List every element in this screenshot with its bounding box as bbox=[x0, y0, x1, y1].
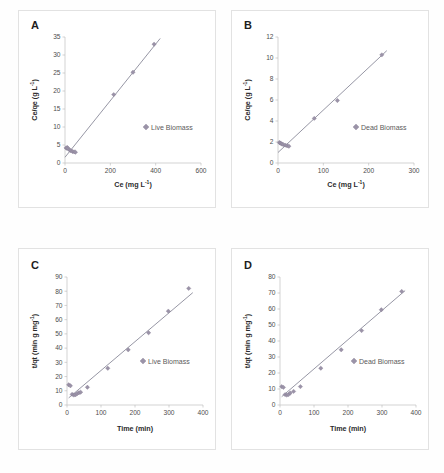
panel-c-chart: 0102030405060708090 0100200300400 Live B… bbox=[19, 249, 215, 449]
panel-c-legend-label: Live Biomass bbox=[148, 358, 190, 365]
y-tick-label: 50 bbox=[55, 330, 63, 337]
panel-a: A 05101520253035 0200400600 Live Biomass… bbox=[18, 10, 216, 208]
y-tick-label: 40 bbox=[55, 344, 63, 351]
panel-a-legend-label: Live Biomass bbox=[151, 124, 193, 131]
trend-line bbox=[282, 291, 405, 397]
panel-a-xaxis: 0200400600 bbox=[63, 163, 207, 174]
y-tick-label: 2 bbox=[270, 138, 274, 145]
trend-line bbox=[69, 293, 193, 398]
data-point bbox=[335, 98, 339, 102]
y-tick-label: 10 bbox=[55, 387, 63, 394]
x-tick-label: 200 bbox=[342, 409, 353, 416]
x-tick-label: 300 bbox=[408, 167, 419, 174]
y-tick-label: 30 bbox=[268, 353, 276, 360]
panel-d-legend-label: Dead Biomass bbox=[359, 358, 405, 365]
y-tick-label: 90 bbox=[55, 273, 63, 280]
y-tick-label: 0 bbox=[57, 159, 61, 166]
y-tick-label: 60 bbox=[55, 316, 63, 323]
data-point bbox=[187, 286, 191, 290]
trend-line bbox=[278, 51, 387, 153]
data-point bbox=[400, 289, 404, 293]
panel-b-xaxis-title: Ce (mg L-1) bbox=[327, 179, 365, 189]
panel-d-xaxis-title: Time (min) bbox=[330, 424, 367, 433]
y-tick-label: 5 bbox=[57, 141, 61, 148]
y-tick-label: 10 bbox=[53, 123, 61, 130]
panel-b-yaxis-title: Ce/qe (g L-1) bbox=[242, 79, 252, 121]
y-tick-label: 60 bbox=[268, 305, 276, 312]
panel-b-xaxis: 0100200300 bbox=[276, 163, 420, 174]
panel-d-chart: 01020304050607080 0100200300400 Dead Bio… bbox=[232, 249, 428, 449]
y-tick-label: 40 bbox=[268, 337, 276, 344]
panel-a-yaxis: 05101520253035 bbox=[53, 33, 65, 166]
y-tick-label: 20 bbox=[53, 87, 61, 94]
y-tick-label: 10 bbox=[266, 54, 274, 61]
x-tick-label: 300 bbox=[376, 409, 387, 416]
panel-b: B 024681012 0100200300 Dead Biomass Ce (… bbox=[231, 10, 429, 208]
panel-d-yaxis-title: t/qt (min g mg-1) bbox=[242, 313, 252, 368]
panel-c-xaxis-title: Time (min) bbox=[117, 424, 154, 433]
x-tick-label: 0 bbox=[65, 409, 69, 416]
panel-c-xaxis: 0100200300400 bbox=[65, 405, 209, 416]
y-tick-label: 0 bbox=[272, 401, 276, 408]
panel-b-data bbox=[277, 51, 387, 153]
panel-c-data bbox=[67, 286, 193, 398]
y-tick-label: 8 bbox=[270, 75, 274, 82]
panel-b-legend: Dead Biomass bbox=[353, 124, 407, 131]
data-point bbox=[106, 366, 110, 370]
x-tick-label: 100 bbox=[308, 409, 319, 416]
panel-c-yaxis: 0102030405060708090 bbox=[55, 273, 67, 408]
data-point bbox=[298, 384, 302, 388]
y-tick-label: 35 bbox=[53, 33, 61, 40]
x-tick-label: 200 bbox=[363, 167, 374, 174]
panel-c-yaxis-title: t/qt (min g mg-1) bbox=[29, 313, 39, 368]
panel-d: D 01020304050607080 0100200300400 Dead B… bbox=[231, 248, 429, 450]
data-point bbox=[152, 42, 156, 46]
y-tick-label: 30 bbox=[53, 51, 61, 58]
panel-a-legend: Live Biomass bbox=[143, 124, 193, 131]
y-tick-label: 50 bbox=[268, 321, 276, 328]
x-tick-label: 300 bbox=[163, 409, 174, 416]
panel-b-legend-label: Dead Biomass bbox=[361, 124, 407, 131]
panel-d-yaxis: 01020304050607080 bbox=[268, 273, 280, 408]
y-tick-label: 70 bbox=[55, 302, 63, 309]
panel-b-yaxis: 024681012 bbox=[266, 33, 278, 166]
y-tick-label: 20 bbox=[268, 369, 276, 376]
y-tick-label: 80 bbox=[55, 288, 63, 295]
y-tick-label: 20 bbox=[55, 373, 63, 380]
y-tick-label: 70 bbox=[268, 289, 276, 296]
y-tick-label: 0 bbox=[270, 159, 274, 166]
trend-line bbox=[65, 38, 160, 157]
panel-a-chart: 05101520253035 0200400600 Live Biomass C… bbox=[19, 11, 215, 207]
panel-c-legend: Live Biomass bbox=[140, 358, 190, 365]
panel-b-chart: 024681012 0100200300 Dead Biomass Ce (mg… bbox=[232, 11, 428, 207]
x-tick-label: 400 bbox=[150, 167, 161, 174]
x-tick-label: 400 bbox=[410, 409, 421, 416]
x-tick-label: 100 bbox=[318, 167, 329, 174]
panel-a-data bbox=[64, 38, 160, 157]
y-tick-label: 80 bbox=[268, 273, 276, 280]
x-tick-label: 0 bbox=[63, 167, 67, 174]
y-tick-label: 10 bbox=[268, 385, 276, 392]
y-tick-label: 15 bbox=[53, 105, 61, 112]
y-tick-label: 4 bbox=[270, 117, 274, 124]
x-tick-label: 100 bbox=[95, 409, 106, 416]
data-point bbox=[379, 308, 383, 312]
y-tick-label: 6 bbox=[270, 96, 274, 103]
panel-d-data bbox=[280, 289, 406, 397]
data-point bbox=[85, 385, 89, 389]
data-point bbox=[319, 366, 323, 370]
x-tick-label: 200 bbox=[105, 167, 116, 174]
data-point bbox=[339, 348, 343, 352]
panel-d-legend: Dead Biomass bbox=[351, 358, 405, 365]
panel-a-xaxis-title: Ce (mg L-1) bbox=[114, 179, 152, 189]
y-tick-label: 30 bbox=[55, 359, 63, 366]
panel-d-xaxis: 0100200300400 bbox=[278, 405, 422, 416]
data-point bbox=[112, 92, 116, 96]
y-tick-label: 0 bbox=[59, 401, 63, 408]
y-tick-label: 25 bbox=[53, 69, 61, 76]
figure-sheet: A 05101520253035 0200400600 Live Biomass… bbox=[0, 0, 444, 473]
x-tick-label: 600 bbox=[195, 167, 206, 174]
panel-c: C 0102030405060708090 0100200300400 Live… bbox=[18, 248, 216, 450]
panel-a-yaxis-title: Ce/qe (g L-1) bbox=[29, 79, 39, 121]
x-tick-label: 400 bbox=[197, 409, 208, 416]
